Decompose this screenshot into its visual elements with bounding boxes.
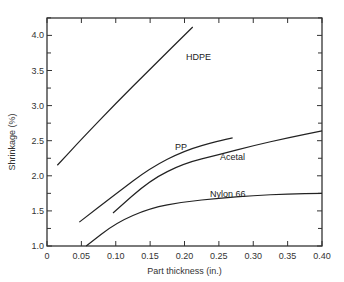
x-tick-label: 0 bbox=[44, 251, 49, 261]
y-tick-label: 1.0 bbox=[31, 241, 44, 251]
y-axis-title: Shrinkage (%) bbox=[7, 113, 17, 170]
series-line-hdpe bbox=[57, 27, 192, 165]
x-tick-label: 0.40 bbox=[313, 251, 331, 261]
series-line-acetal bbox=[113, 131, 322, 213]
x-tick-label: 0.30 bbox=[244, 251, 262, 261]
y-tick-label: 2.0 bbox=[31, 171, 44, 181]
series-label-hdpe: HDPE bbox=[186, 52, 211, 62]
x-tick-label: 0.20 bbox=[176, 251, 194, 261]
y-tick-label: 4.0 bbox=[31, 30, 44, 40]
x-tick-label: 0.25 bbox=[210, 251, 228, 261]
x-axis-title: Part thickness (in.) bbox=[147, 266, 222, 276]
y-tick-label: 3.5 bbox=[31, 66, 44, 76]
series-label-acetal: Acetal bbox=[220, 152, 245, 162]
series-line-nylon-66 bbox=[86, 193, 322, 246]
x-tick-label: 0.05 bbox=[73, 251, 91, 261]
x-tick-label: 0.15 bbox=[141, 251, 159, 261]
y-tick-label: 2.5 bbox=[31, 136, 44, 146]
series-label-nylon-66: Nylon 66 bbox=[210, 189, 246, 199]
series-label-pp: PP bbox=[175, 142, 187, 152]
shrinkage-chart: 00.050.100.150.200.250.300.350.401.01.52… bbox=[0, 0, 344, 282]
series-line-pp bbox=[79, 138, 232, 222]
y-tick-label: 3.0 bbox=[31, 101, 44, 111]
x-tick-label: 0.35 bbox=[279, 251, 297, 261]
x-tick-label: 0.10 bbox=[107, 251, 125, 261]
y-tick-label: 1.5 bbox=[31, 206, 44, 216]
